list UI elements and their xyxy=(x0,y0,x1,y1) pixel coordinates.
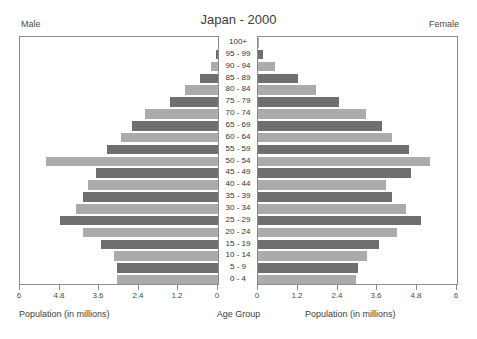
bar-male-70-74[interactable] xyxy=(145,109,218,119)
bar-male-50-54[interactable] xyxy=(46,157,218,167)
bar-row xyxy=(258,179,457,191)
male-x-axis: 64.83.62.41.20 xyxy=(19,285,219,307)
bar-female-80-84[interactable] xyxy=(258,85,316,95)
bar-row xyxy=(258,61,457,73)
male-plot-panel xyxy=(19,36,219,285)
bar-male-0-4[interactable] xyxy=(117,275,218,285)
age-group-label: 95 - 99 xyxy=(219,48,257,60)
female-plot-panel xyxy=(257,36,458,285)
age-group-label: 40 - 44 xyxy=(219,178,257,190)
age-group-label: 5 - 9 xyxy=(219,261,257,273)
bar-male-30-34[interactable] xyxy=(76,204,218,214)
bar-female-20-24[interactable] xyxy=(258,228,397,238)
axis-tick-label: 4.8 xyxy=(46,291,72,300)
age-group-caption: Age Group xyxy=(0,309,477,319)
bar-male-15-19[interactable] xyxy=(101,240,218,250)
age-group-label: 90 - 94 xyxy=(219,60,257,72)
bar-male-80-84[interactable] xyxy=(185,85,218,95)
bar-male-35-39[interactable] xyxy=(83,192,218,202)
bar-male-20-24[interactable] xyxy=(83,228,218,238)
age-group-label: 20 - 24 xyxy=(219,226,257,238)
bar-female-40-44[interactable] xyxy=(258,180,386,190)
bar-row xyxy=(258,203,457,215)
bar-row xyxy=(20,167,218,179)
bar-male-45-49[interactable] xyxy=(96,168,218,178)
bar-male-25-29[interactable] xyxy=(60,216,218,226)
bar-male-60-64[interactable] xyxy=(121,133,218,143)
bar-male-75-79[interactable] xyxy=(170,97,218,107)
bar-female-100+[interactable] xyxy=(258,38,259,48)
bar-female-70-74[interactable] xyxy=(258,109,366,119)
bar-female-10-14[interactable] xyxy=(258,251,367,261)
axis-tick xyxy=(297,285,298,290)
bar-row xyxy=(258,49,457,61)
bar-female-50-54[interactable] xyxy=(258,157,430,167)
age-group-label: 65 - 69 xyxy=(219,119,257,131)
bar-row xyxy=(20,73,218,85)
bar-female-75-79[interactable] xyxy=(258,97,339,107)
bar-row xyxy=(258,73,457,85)
age-group-axis: 100+95 - 9990 - 9485 - 8980 - 8475 - 797… xyxy=(219,36,257,285)
axis-tick xyxy=(177,285,178,290)
bar-row xyxy=(258,250,457,262)
bar-row xyxy=(258,108,457,120)
bar-female-15-19[interactable] xyxy=(258,240,379,250)
age-group-label: 10 - 14 xyxy=(219,249,257,261)
bar-row xyxy=(258,144,457,156)
bar-male-90-94[interactable] xyxy=(211,62,218,72)
bar-male-55-59[interactable] xyxy=(107,145,218,155)
axis-tick-label: 0 xyxy=(204,291,230,300)
axis-tick xyxy=(337,285,338,290)
axis-tick xyxy=(217,285,218,290)
bar-male-40-44[interactable] xyxy=(88,180,218,190)
axis-tick xyxy=(138,285,139,290)
bar-female-45-49[interactable] xyxy=(258,168,411,178)
axis-tick-label: 6 xyxy=(443,291,469,300)
bar-row xyxy=(258,120,457,132)
axis-tick xyxy=(376,285,377,290)
age-group-label: 35 - 39 xyxy=(219,190,257,202)
bar-female-95-99[interactable] xyxy=(258,50,263,60)
bar-female-90-94[interactable] xyxy=(258,62,275,72)
bar-female-85-89[interactable] xyxy=(258,74,298,84)
axis-tick-label: 3.6 xyxy=(85,291,111,300)
bar-row xyxy=(258,262,457,274)
bar-row xyxy=(20,239,218,251)
bar-male-95-99[interactable] xyxy=(216,50,218,60)
axis-tick xyxy=(98,285,99,290)
bar-row xyxy=(20,49,218,61)
bar-row xyxy=(20,132,218,144)
axis-tick xyxy=(19,285,20,290)
age-group-label: 45 - 49 xyxy=(219,166,257,178)
bar-row xyxy=(20,144,218,156)
bar-male-5-9[interactable] xyxy=(117,263,218,273)
bar-female-55-59[interactable] xyxy=(258,145,409,155)
age-group-label: 75 - 79 xyxy=(219,95,257,107)
bar-row xyxy=(258,132,457,144)
bar-male-85-89[interactable] xyxy=(200,74,218,84)
bar-female-65-69[interactable] xyxy=(258,121,382,131)
bar-female-30-34[interactable] xyxy=(258,204,406,214)
bar-female-0-4[interactable] xyxy=(258,275,356,285)
bar-male-65-69[interactable] xyxy=(132,121,218,131)
bar-female-25-29[interactable] xyxy=(258,216,421,226)
axis-tick-label: 1.2 xyxy=(164,291,190,300)
chart-title: Japan - 2000 xyxy=(0,12,477,28)
bar-female-35-39[interactable] xyxy=(258,192,392,202)
bar-female-5-9[interactable] xyxy=(258,263,358,273)
female-bar-rows xyxy=(258,37,457,284)
bar-row xyxy=(20,84,218,96)
bar-row xyxy=(258,156,457,168)
age-group-label: 25 - 29 xyxy=(219,214,257,226)
bar-female-60-64[interactable] xyxy=(258,133,392,143)
bar-row xyxy=(20,120,218,132)
bar-male-10-14[interactable] xyxy=(114,251,218,261)
age-group-label: 30 - 34 xyxy=(219,202,257,214)
bar-row xyxy=(20,227,218,239)
bar-row xyxy=(258,37,457,49)
axis-tick-label: 1.2 xyxy=(284,291,310,300)
female-x-axis: 01.22.43.64.86 xyxy=(257,285,458,307)
age-group-label: 100+ xyxy=(219,36,257,48)
female-axis-caption: Population (in millions) xyxy=(305,309,396,319)
axis-tick-label: 2.4 xyxy=(324,291,350,300)
